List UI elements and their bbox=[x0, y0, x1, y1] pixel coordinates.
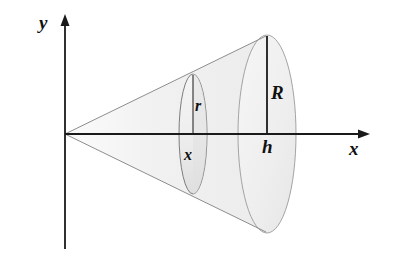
y-axis-label: y bbox=[39, 13, 47, 32]
height-label: h bbox=[262, 137, 273, 156]
figure-canvas: y x R h r x bbox=[0, 0, 396, 257]
x-axis-arrowhead bbox=[358, 130, 370, 139]
cross-section-radius-label: r bbox=[195, 98, 201, 114]
x-axis-label: x bbox=[349, 139, 359, 158]
y-axis-arrowhead bbox=[61, 14, 70, 26]
cone-diagram-svg bbox=[0, 0, 396, 257]
base-radius-label: R bbox=[271, 83, 284, 102]
cross-section-distance-label: x bbox=[184, 147, 192, 163]
